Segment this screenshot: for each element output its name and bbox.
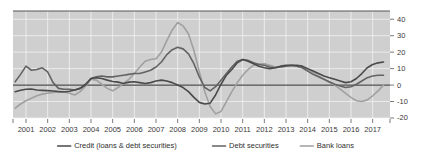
x-tick-label: 2005 [104,125,121,134]
x-tick-label: 2003 [61,125,78,134]
x-tick-label: 2013 [278,125,295,134]
y-tick-label: 20 [397,48,405,57]
y-tick-label: 10 [397,64,405,73]
x-tick-marks [13,119,390,123]
y-tick-label: -10 [397,97,408,106]
x-tick-label: 2001 [18,125,35,134]
line-chart: 403020100-10-20 200120022003200420052006… [0,0,427,158]
x-tick-label: 2002 [39,125,56,134]
y-tick-label: 0 [397,81,401,90]
x-tick-label: 2011 [235,125,251,134]
legend-label-credit-loans-debt-securities: Credit (loans & debt securities) [74,141,177,150]
x-tick-label: 2008 [169,125,186,134]
x-tick-label: 2009 [191,125,208,134]
legend-label-debt-securities: Debt securities [229,141,279,150]
y-tick-label: 30 [397,31,405,40]
x-tick-label: 2014 [299,125,316,134]
chart-container: 403020100-10-20 200120022003200420052006… [0,0,427,158]
legend-label-bank-loans: Bank loans [317,141,354,150]
x-tick-label: 2007 [148,125,165,134]
y-axis-tick-labels: 403020100-10-20 [390,15,408,123]
x-tick-label: 2012 [256,125,273,134]
x-tick-label: 2004 [83,125,100,134]
x-tick-label: 2016 [343,125,360,134]
y-tick-label: -20 [397,113,408,122]
x-tick-label: 2006 [126,125,143,134]
chart-legend: Credit (loans & debt securities)Debt sec… [58,141,355,150]
x-tick-label: 2010 [213,125,230,134]
x-tick-label: 2017 [364,125,381,134]
y-tick-label: 40 [397,15,405,24]
x-tick-label: 2015 [321,125,338,134]
x-axis-tick-labels: 2001200220032004200520062007200820092010… [18,125,381,134]
